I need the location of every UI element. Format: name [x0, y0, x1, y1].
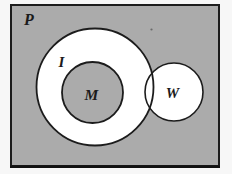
universe-label: P	[23, 11, 34, 28]
set-m-label: M	[84, 86, 100, 103]
euler-diagram: P I M W	[0, 0, 232, 174]
set-i-label: I	[58, 54, 66, 70]
euler-diagram-figure: P I M W	[0, 0, 232, 174]
speck-artifact	[150, 28, 152, 30]
set-w-label: W	[166, 85, 181, 101]
